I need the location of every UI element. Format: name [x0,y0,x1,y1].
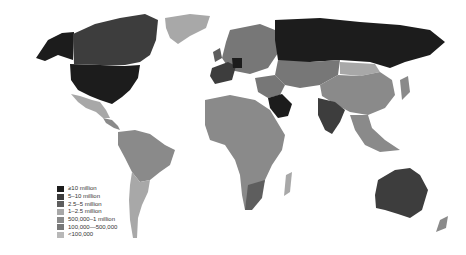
legend-item: 1–2.5 million [57,208,177,216]
region-africa [205,95,285,210]
region-canada [73,14,158,65]
region-uk [213,48,222,62]
region-southeast-asia [350,115,400,152]
legend-label: 5–10 million [68,193,100,200]
region-madagascar [284,172,292,196]
region-germany [232,58,242,68]
region-central-america [103,118,120,130]
legend-item: <100,000 [57,231,177,239]
region-russia [275,18,445,68]
map-legend: ≥10 million 5–10 million 2.5–5 million 1… [57,185,177,239]
legend-label: <100,000 [68,231,93,238]
region-greenland [165,14,210,44]
legend-label: 500,000–1 million [68,216,115,223]
legend-label: 1–2.5 million [68,208,102,215]
legend-item: 500,000–1 million [57,216,177,224]
legend-swatch [57,224,64,230]
legend-item: 2.5–5 million [57,200,177,208]
region-new-zealand [436,216,448,232]
legend-swatch [57,217,64,223]
legend-swatch [57,209,64,215]
region-alaska [36,32,74,61]
legend-swatch [57,201,64,207]
legend-label: 100,000—500,000 [68,224,117,231]
legend-swatch [57,232,64,238]
region-south-america [118,130,175,182]
region-australia [375,168,428,218]
region-japan [400,76,410,100]
legend-swatch [57,194,64,200]
legend-swatch [57,186,64,192]
legend-item: 5–10 million [57,193,177,201]
legend-label: ≥10 million [68,185,97,192]
region-france-spain [210,62,236,84]
legend-item: ≥10 million [57,185,177,193]
legend-label: 2.5–5 million [68,201,102,208]
legend-item: 100,000—500,000 [57,223,177,231]
